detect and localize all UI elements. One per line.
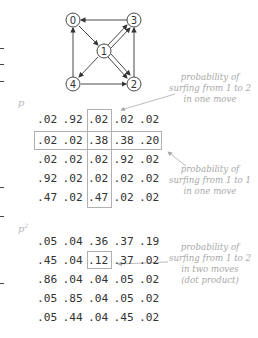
row-1-highlight: [34, 131, 162, 150]
edge-1-3-a: [108, 25, 127, 45]
cell: .47: [37, 189, 63, 206]
annotation-col-probability: probability of surfing from 1 to 2 in on…: [162, 72, 258, 105]
cell: .02: [139, 189, 165, 206]
cell: .04: [88, 290, 114, 307]
cell: .04: [88, 309, 114, 326]
matrix-p2-label: p2: [18, 222, 28, 234]
node-0: 0: [66, 13, 80, 27]
node-3: 3: [127, 13, 141, 27]
cell: .02: [139, 170, 165, 187]
annotation-line: surfing from 1 to 2: [162, 253, 258, 264]
annotation-line: (dot product): [162, 275, 258, 286]
graph-nodes: 0 1 2 3 4: [66, 13, 141, 91]
svg-text:2: 2: [131, 79, 137, 90]
cell: .02: [139, 290, 165, 307]
annotation-line: surfing from 1 to 2: [162, 83, 258, 94]
cell: .02: [139, 111, 165, 128]
edge-0-1: [79, 26, 98, 45]
node-1: 1: [97, 44, 111, 58]
annotation-line: surfing from 1 to 1: [162, 175, 258, 186]
annotation-line: in one move: [162, 186, 258, 197]
cell: .05: [114, 271, 140, 288]
cell: .86: [37, 271, 63, 288]
node-4: 4: [66, 77, 80, 91]
node-2: 2: [127, 77, 141, 91]
cell: .37: [114, 252, 140, 269]
edge-1-4: [79, 57, 98, 77]
cell: .02: [37, 111, 63, 128]
edge-1-3-b: [111, 28, 130, 48]
cell: .02: [63, 170, 89, 187]
cell: .45: [114, 309, 140, 326]
cell: .02: [114, 170, 140, 187]
matrix-p2-row-2: .86.04.04.05.02: [37, 271, 165, 288]
annotation-line: probability of: [162, 242, 258, 253]
cell: .02: [37, 151, 63, 168]
matrix-p2-row-3: .05.85.04.05.02: [37, 290, 165, 307]
cell: .04: [63, 271, 89, 288]
matrix-p2-row-4: .05.44.04.45.02: [37, 309, 165, 326]
svg-text:1: 1: [101, 46, 107, 57]
edge-1-2-a: [108, 57, 127, 78]
cell: .02: [139, 151, 165, 168]
cell: .44: [63, 309, 89, 326]
cell: .05: [114, 290, 140, 307]
cell: .02: [139, 271, 165, 288]
cell: .85: [63, 290, 89, 307]
matrix-p2-row-0: .05.04.36.37.19: [37, 233, 165, 250]
cell: .19: [139, 233, 165, 250]
annotation-line: in two moves: [162, 264, 258, 275]
annotation-line: probability of: [162, 164, 258, 175]
svg-text:3: 3: [131, 15, 137, 26]
annotation-two-moves: probability of surfing from 1 to 2 in tw…: [162, 242, 258, 286]
cell: .37: [114, 233, 140, 250]
dot-product-highlight: [87, 251, 112, 269]
cell: .04: [63, 233, 89, 250]
cell: .04: [88, 271, 114, 288]
matrix-p-label: p: [18, 97, 24, 108]
cell: .02: [63, 189, 89, 206]
svg-text:0: 0: [70, 15, 76, 26]
annotation-row-probability: probability of surfing from 1 to 1 in on…: [162, 164, 258, 197]
annotation-line: probability of: [162, 72, 258, 83]
cell: .05: [37, 290, 63, 307]
cell: .02: [139, 309, 165, 326]
cell: .92: [114, 151, 140, 168]
cell: .02: [114, 111, 140, 128]
cell: .05: [37, 309, 63, 326]
cell: .92: [63, 111, 89, 128]
cell: .02: [63, 151, 89, 168]
column-2-highlight: [87, 109, 112, 208]
cell: .02: [139, 252, 165, 269]
cell: .02: [114, 189, 140, 206]
cell: .36: [88, 233, 114, 250]
cell: .05: [37, 233, 63, 250]
cell: .45: [37, 252, 63, 269]
cell: .92: [37, 170, 63, 187]
annotation-line: in one move: [162, 94, 258, 105]
svg-text:4: 4: [70, 79, 76, 90]
cell: .04: [63, 252, 89, 269]
edge-1-2-b: [111, 54, 130, 75]
